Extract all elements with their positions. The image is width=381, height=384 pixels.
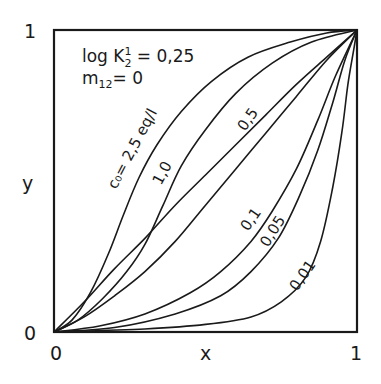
x-tick-1: 1 xyxy=(350,342,362,364)
curves xyxy=(54,30,357,332)
curve-1-0 xyxy=(54,30,357,332)
y-tick-0: 0 xyxy=(24,322,36,344)
curve-0-5 xyxy=(54,30,357,332)
curve-label-1-0: 1,0 xyxy=(149,158,176,188)
curve-0-01 xyxy=(54,30,357,332)
annotation-m-sub: 12 xyxy=(99,78,113,91)
svg-text:log K12 = 0,25: log K12 = 0,25 xyxy=(82,45,194,70)
annotation-m-value: = 0 xyxy=(113,68,143,88)
curve-label-0-01: 0,01 xyxy=(286,257,320,295)
curve-label-0-5: 0,5 xyxy=(234,104,262,134)
chart: 1 0 0 1 x y log K12 = 0,25 m12= 0 c₀= 2,… xyxy=(0,0,381,384)
curve-c0-2-5eq-l xyxy=(54,30,357,332)
svg-text:m12= 0: m12= 0 xyxy=(82,68,143,91)
curve-diagonal xyxy=(54,30,357,332)
annotation-logk-value: = 0,25 xyxy=(131,46,194,66)
x-axis-label: x xyxy=(200,342,211,364)
curve-0-1 xyxy=(54,30,357,332)
annotation-logk-main: log K xyxy=(82,46,125,66)
annotation-m-main: m xyxy=(82,68,99,88)
plot-frame xyxy=(54,30,357,332)
y-tick-1: 1 xyxy=(24,20,36,42)
y-axis-label: y xyxy=(22,172,33,194)
annotation-logk: log K12 = 0,25 m12= 0 xyxy=(82,45,194,91)
x-tick-0: 0 xyxy=(50,342,62,364)
curve-0-05 xyxy=(54,30,357,332)
